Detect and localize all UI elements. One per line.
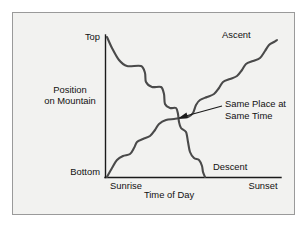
series-label-descent: Descent xyxy=(213,161,248,172)
y-tick-label-bottom: Bottom xyxy=(70,166,100,177)
series-label-ascent: Ascent xyxy=(222,29,251,40)
annotation-text-line1: Same Place at xyxy=(225,98,286,109)
figure-root: Top Bottom Sunrise Sunset Position on Mo… xyxy=(0,0,308,226)
x-axis-title: Time of Day xyxy=(144,189,194,200)
x-tick-label-sunset: Sunset xyxy=(248,180,278,191)
x-tick-label-sunrise: Sunrise xyxy=(110,180,142,191)
y-tick-label-top: Top xyxy=(85,31,100,42)
annotation-leader-line xyxy=(182,106,222,117)
annotation-text-line2: Same Time xyxy=(225,110,272,121)
y-axis-title-line2: on Mountain xyxy=(44,95,96,106)
crossing-annotation-group xyxy=(178,106,222,119)
mountain-position-chart: Top Bottom Sunrise Sunset Position on Mo… xyxy=(0,0,308,226)
y-axis-title-line1: Position xyxy=(53,84,86,95)
annotation-arrow-head xyxy=(178,113,188,119)
